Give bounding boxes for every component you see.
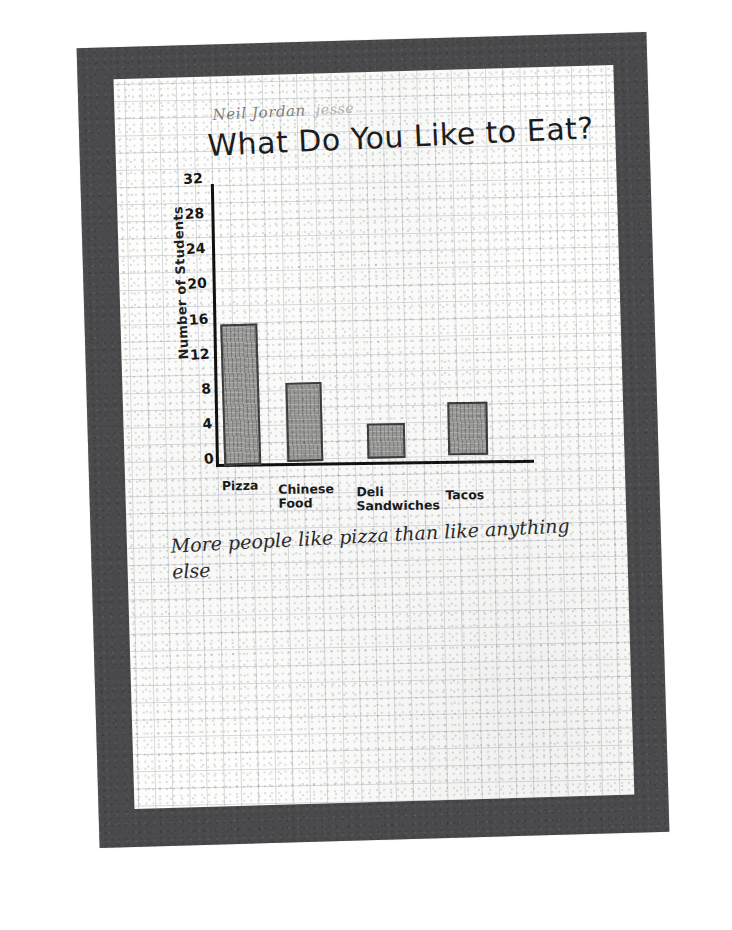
bar-pizza [220,323,261,465]
worksheet-frame: Neil Jordanjesse What Do You Like to Eat… [77,32,670,848]
bar-chinese-food [285,382,323,462]
bar-deli-sandwiches [367,423,406,459]
graph-paper-sheet: Neil Jordanjesse What Do You Like to Eat… [114,65,635,809]
y-tick-16: 16 [174,310,209,329]
x-label-tacos: Tacos [445,488,484,502]
y-tick-8: 8 [176,380,211,399]
x-label-deli-sandwiches: Deli Sandwiches [356,484,440,513]
student-name-secondary: jesse [315,100,354,118]
y-tick-4: 4 [178,415,213,434]
y-axis-tick-labels: 048121620242832 [163,178,214,471]
plot-area: PizzaChinese FoodDeli SandwichesTacos [208,172,534,465]
y-tick-20: 20 [172,275,207,293]
x-label-chinese-food: Chinese Food [278,482,334,511]
photo-stage: Neil Jordanjesse What Do You Like to Eat… [0,0,732,930]
y-tick-24: 24 [171,240,206,258]
bar-chart: Number of Students 048121620242832 Pizza… [133,165,565,501]
y-tick-32: 32 [168,170,203,188]
bar-tacos [447,402,488,455]
x-label-pizza: Pizza [222,479,259,494]
y-tick-28: 28 [170,205,205,223]
y-tick-12: 12 [175,345,210,364]
y-tick-0: 0 [179,450,215,470]
